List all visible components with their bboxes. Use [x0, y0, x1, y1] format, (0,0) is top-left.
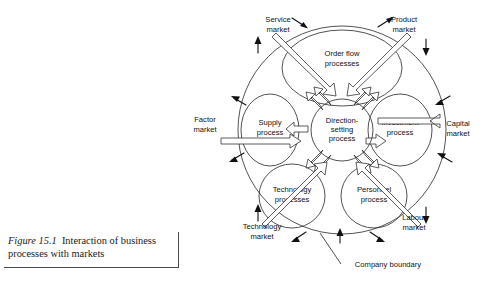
- figure-title-line2: processes with markets: [8, 248, 104, 259]
- process-node-investment: Investment process: [368, 94, 432, 166]
- figure-container: Order flow processes Supply process Inve…: [0, 0, 484, 283]
- center-label-line3: process: [329, 134, 356, 143]
- market-label-product: Product market: [391, 15, 418, 34]
- process-label-supply-line2: process: [257, 128, 284, 137]
- market-capital-line1: Capital: [446, 119, 470, 128]
- market-label-factor: Factor market: [193, 115, 217, 134]
- center-node-direction-setting: Direction- setting process: [311, 99, 373, 161]
- market-product-line2: market: [392, 25, 416, 34]
- center-label-line2: setting: [331, 125, 353, 134]
- figure-title-line1: Interaction of business: [62, 235, 156, 246]
- company-boundary-leader-line: [320, 233, 341, 264]
- market-label-capital: Capital market: [446, 119, 470, 138]
- block-arrow-technology-market-process: [262, 162, 327, 228]
- process-label-personnel-line2: process: [361, 195, 388, 204]
- company-boundary-label: Company boundary: [355, 260, 421, 269]
- market-service-line2: market: [266, 25, 290, 34]
- market-factor-line2: market: [193, 125, 217, 134]
- market-label-service: Service market: [265, 15, 290, 34]
- process-label-order-flow-line2: processes: [325, 59, 360, 68]
- process-label-order-flow-line1: Order flow: [324, 49, 360, 58]
- process-node-personnel: Personnel process: [341, 164, 407, 228]
- market-service-line1: Service: [265, 15, 290, 24]
- market-label-technology: Technology market: [243, 222, 282, 241]
- market-capital-line2: market: [446, 129, 470, 138]
- figure-caption: Figure 15.1 Interaction of business proc…: [4, 232, 179, 268]
- market-labour-line2: market: [402, 223, 426, 232]
- block-arrow-center-to-supply: [286, 122, 308, 136]
- process-label-investment-line2: process: [387, 128, 414, 137]
- market-technology-line1: Technology: [243, 222, 282, 231]
- figure-number: Figure 15.1: [8, 235, 57, 246]
- market-labour-line1: Labour: [402, 213, 426, 222]
- market-factor-line1: Factor: [194, 115, 216, 124]
- market-label-labour: Labour market: [402, 213, 426, 232]
- market-product-line1: Product: [391, 15, 418, 24]
- process-label-supply-line1: Supply: [258, 118, 281, 127]
- market-technology-line2: market: [250, 232, 274, 241]
- process-node-order-flow: Order flow processes: [282, 30, 402, 106]
- center-label-line1: Direction-: [326, 116, 359, 125]
